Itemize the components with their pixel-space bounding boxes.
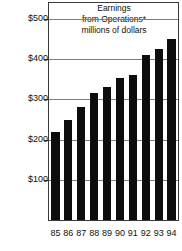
- y-axis-label: $100: [4, 174, 48, 184]
- x-axis-label-86: 86: [62, 228, 75, 238]
- x-axis-label-93: 93: [152, 228, 165, 238]
- y-axis-label: $300: [4, 93, 48, 103]
- x-axis-label-85: 85: [49, 228, 62, 238]
- y-axis-label: $400: [4, 53, 48, 63]
- bar-92: [142, 55, 150, 220]
- earnings-bar-chart: Earnings from Operations* millions of do…: [0, 0, 182, 251]
- y-axis-label: $500: [4, 13, 48, 23]
- bar-89: [103, 87, 111, 220]
- bar-88: [90, 93, 98, 220]
- bar-91: [129, 75, 137, 220]
- y-axis-label: $200: [4, 134, 48, 144]
- x-axis-label-92: 92: [139, 228, 152, 238]
- bar-93: [155, 49, 163, 220]
- x-axis-label-88: 88: [88, 228, 101, 238]
- x-axis: 85868788899091929394: [49, 228, 178, 242]
- bar-94: [167, 39, 175, 220]
- x-axis-label-89: 89: [101, 228, 114, 238]
- bar-86: [64, 120, 72, 220]
- x-axis-label-90: 90: [114, 228, 127, 238]
- bars-group: [49, 3, 178, 220]
- x-axis-label-91: 91: [126, 228, 139, 238]
- x-axis-label-87: 87: [75, 228, 88, 238]
- x-axis-label-94: 94: [165, 228, 178, 238]
- bar-90: [116, 78, 124, 220]
- bar-85: [51, 132, 59, 220]
- bar-87: [77, 107, 85, 220]
